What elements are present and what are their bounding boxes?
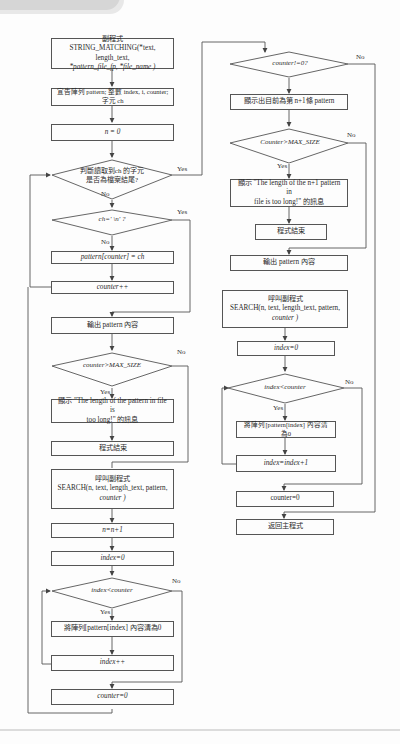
node-label: 呼叫副程式 xyxy=(268,295,303,304)
node-index-init: index=0 xyxy=(51,551,174,566)
node-show-last: 顯示出目前為第 n+1條 pattern xyxy=(230,94,348,110)
node-counter-reset-right: counter=0 xyxy=(236,491,334,507)
label-yes: Yes xyxy=(273,404,283,412)
label-no: No xyxy=(345,378,354,386)
node-newline-check: ch=' \n' ? xyxy=(62,214,162,226)
node-output-pattern-right: 輸出 pattern 內容 xyxy=(230,255,348,271)
label-yes: Yes xyxy=(100,388,110,396)
node-end-program: 程式結束 xyxy=(51,441,174,456)
label-no: No xyxy=(356,53,365,61)
page-divider xyxy=(0,729,400,731)
node-label: STRING_MATCHING(*text, length_text, xyxy=(56,44,169,63)
node-label: 副程式 xyxy=(102,35,123,44)
node-return-main: 返回主程式 xyxy=(236,519,334,535)
node-output-pattern: 輸出 pattern 內容 xyxy=(51,317,174,334)
node-too-long-msg-right: 顯示 "The length of the n+1 pattern in fil… xyxy=(230,179,348,207)
node-counter-nonzero: counter!=0? xyxy=(245,58,335,70)
label-no: No xyxy=(172,577,181,585)
node-label: 呼叫副程式 xyxy=(95,475,130,484)
node-label: 顯示 "The length of the n+1 pattern in xyxy=(235,179,343,198)
label-yes: Yes xyxy=(100,608,110,616)
node-counter-inc: counter++ xyxy=(51,281,174,294)
node-label: 顯示 "The length of the pattern in file is xyxy=(56,397,169,416)
node-size-check-right: Counter>MAX_SIZE xyxy=(245,137,335,149)
label-yes: Yes xyxy=(277,162,287,170)
node-index-inc: index++ xyxy=(51,655,174,671)
node-size-check: counter>MAX_SIZE xyxy=(62,360,162,372)
node-clear-pattern: 將陣列[pattern[index] 內容清為0 xyxy=(51,621,174,637)
node-index-check-right: index<counter xyxy=(240,382,330,394)
node-call-search: 呼叫副程式 SEARCH(n, text, length_text, patte… xyxy=(51,469,174,509)
node-label: 是否為檔案結尾? xyxy=(86,176,138,185)
node-index-inc-right: index=index+1 xyxy=(236,455,336,472)
node-label: *pattern_file_fp, *file_name ) xyxy=(69,63,155,72)
label-yes: Yes xyxy=(177,208,187,216)
node-label: 字元 ch xyxy=(102,97,124,106)
label-no: No xyxy=(101,190,110,198)
node-label: file is too long!" 的訊息 xyxy=(254,198,324,207)
node-assign-pattern: pattern[counter] = ch xyxy=(51,251,174,264)
node-call-search-right: 呼叫副程式 SEARCH(n, text, length_text, patte… xyxy=(222,290,348,328)
node-subroutine-header: 副程式 STRING_MATCHING(*text, length_text, … xyxy=(51,38,174,69)
node-counter-reset: counter=0 xyxy=(51,689,174,705)
node-label: SEARCH(n, text, length_text, pattern, xyxy=(58,484,168,493)
node-eof-check: 判斷讀取到ch 的字元 是否為檔案結尾? xyxy=(62,166,162,186)
node-index-check: index<counter xyxy=(62,585,162,597)
node-clear-pattern-right: 將陣列[pattern[index] 內容清為0 xyxy=(236,421,336,438)
node-label: counter ) xyxy=(99,494,125,503)
node-label: too long!" 的訊息 xyxy=(87,416,139,425)
label-yes: Yes xyxy=(177,165,187,173)
node-label: 判斷讀取到ch 的字元 xyxy=(80,167,144,176)
node-end-program-right: 程式結束 xyxy=(255,224,327,240)
node-declare: 宣告陣列 pattern; 整數 index, i, counter; 字元 c… xyxy=(51,88,174,106)
node-label: counter ) xyxy=(272,314,298,323)
node-label: SEARCH(n, text, length_text, pattern, xyxy=(230,304,340,313)
label-no: No xyxy=(347,131,356,139)
node-too-long-msg: 顯示 "The length of the pattern in file is… xyxy=(51,399,174,423)
label-no: No xyxy=(177,348,186,356)
node-init-n: n = 0 xyxy=(51,124,174,141)
node-index-init-right: index=0 xyxy=(237,341,335,356)
node-label: 宣告陣列 pattern; 整數 index, i, counter; xyxy=(57,88,169,97)
node-n-inc: n=n+1 xyxy=(51,523,174,538)
label-no: No xyxy=(101,238,110,246)
